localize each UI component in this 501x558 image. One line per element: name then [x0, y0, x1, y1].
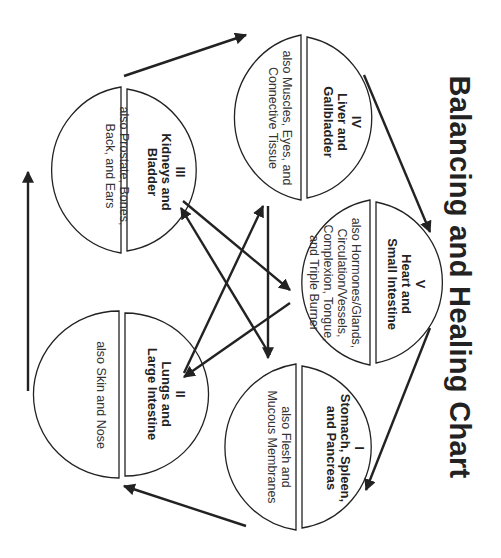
liver-name-2: Gallbladder — [321, 57, 335, 187]
arrow-kidneys-to-heart — [183, 201, 290, 290]
arrow-kidneys-to-liver — [124, 35, 246, 76]
heart-also-4: and Triple Burner — [307, 203, 321, 363]
kidneys-numeral: III — [173, 102, 187, 242]
lungs-also-1: also Skin and Nose — [94, 325, 108, 465]
stomach-name-label: I Stomach, Spleen, and Pancreas — [322, 378, 366, 518]
diagram-canvas: Balancing and Healing Chart III Kidneys … — [0, 0, 501, 558]
arrow-stomach-to-kidneys — [181, 208, 270, 355]
stomach-also-label: also Flesh and Mucous Membranes — [261, 377, 293, 517]
lungs-name-label: II Lungs and Large Intestine — [143, 324, 187, 464]
stomach-name-2: and Pancreas — [324, 378, 338, 518]
kidneys-also-2: Back, and Ears — [103, 91, 117, 241]
liver-name-label: IV Liver and Gallbladder — [319, 57, 363, 187]
heart-also-3: Complexion, Tongue, — [321, 203, 335, 363]
liver-name-1: Liver and — [335, 57, 349, 187]
heart-name-label: V Heart and Small Intestine — [383, 219, 427, 349]
kidneys-also-1: also Prostate, Bones, — [117, 91, 131, 241]
stomach-also-1: also Flesh and — [279, 377, 293, 517]
arrow-stomach-to-lungs — [124, 486, 246, 526]
heart-name-2: Small Intestine — [385, 219, 399, 349]
kidneys-name-2: Bladder — [145, 102, 159, 242]
liver-also-2: Connective Tissue — [266, 38, 280, 198]
heart-numeral: V — [413, 219, 427, 349]
stomach-numeral: I — [352, 378, 366, 518]
heart-name-1: Heart and — [399, 219, 413, 349]
heart-also-2: Circulation/Vessels, — [335, 203, 349, 363]
liver-also-1: also Muscles, Eyes, and — [280, 38, 294, 198]
kidneys-name-1: Kidneys and — [159, 102, 173, 242]
lungs-name-1: Lungs and — [159, 324, 173, 464]
heart-also-label: also Hormones/Glands, Circulation/Vessel… — [305, 203, 363, 363]
heart-also-1: also Hormones/Glands, — [349, 203, 363, 363]
lungs-name-2: Large Intestine — [145, 324, 159, 464]
chart-title: Balancing and Healing Chart — [445, 32, 475, 522]
stomach-also-2: Mucous Membranes — [265, 377, 279, 517]
kidneys-name-label: III Kidneys and Bladder — [147, 102, 187, 242]
liver-also-label: also Muscles, Eyes, and Connective Tissu… — [262, 38, 294, 198]
kidneys-also-label: also Prostate, Bones, Back, and Ears — [99, 91, 131, 241]
stomach-name-1: Stomach, Spleen, — [338, 378, 352, 518]
lungs-numeral: II — [173, 324, 187, 464]
liver-numeral: IV — [349, 57, 363, 187]
lungs-also-label: also Skin and Nose — [92, 325, 108, 465]
